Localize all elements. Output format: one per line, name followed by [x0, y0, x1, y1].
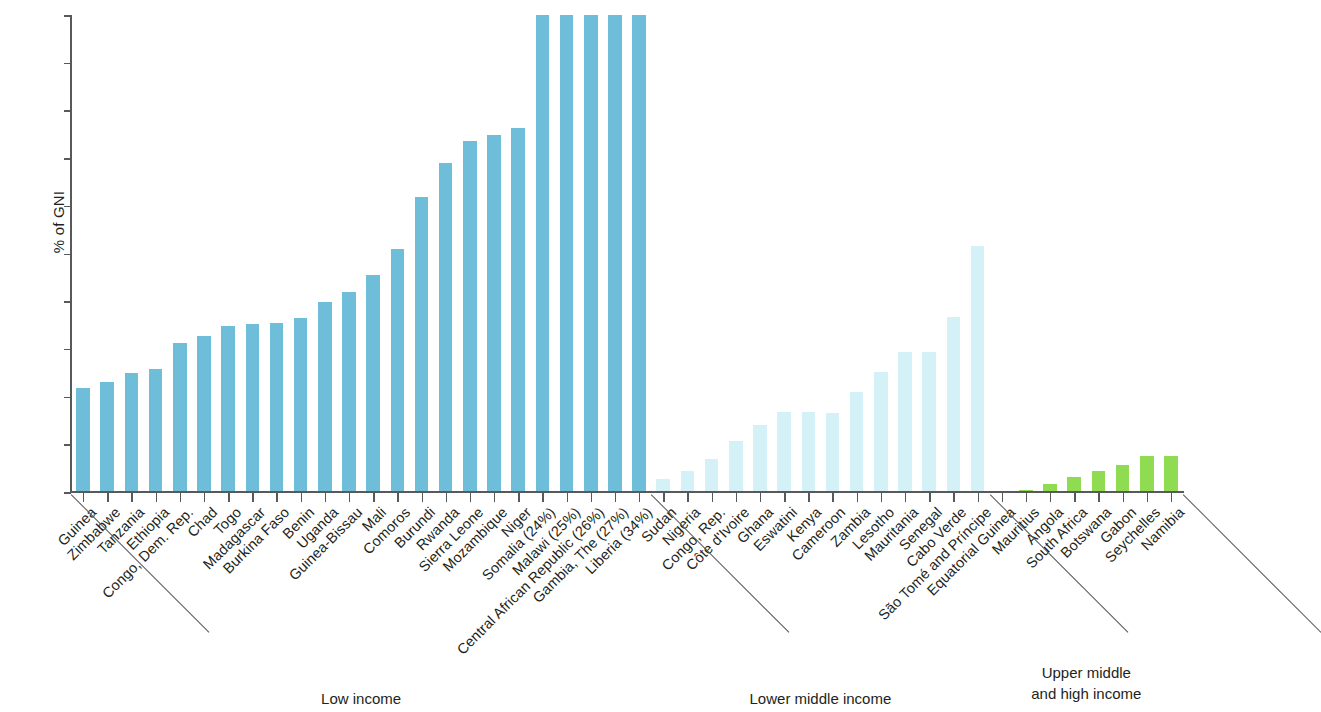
- x-axis-tick-mark: [518, 493, 519, 502]
- bar: [560, 15, 574, 492]
- x-axis-tick-mark: [784, 493, 785, 502]
- x-axis-tick-mark: [905, 493, 906, 502]
- x-axis-tick-mark: [156, 493, 157, 502]
- x-axis-tick-mark: [1123, 493, 1124, 502]
- x-axis-tick-mark: [542, 493, 543, 502]
- bar: [439, 163, 453, 492]
- bar: [608, 15, 622, 492]
- x-axis-tick-mark: [397, 493, 398, 502]
- x-axis-tick-mark: [349, 493, 350, 502]
- y-axis-tick-mark: [64, 158, 71, 160]
- x-axis-tick-mark: [228, 493, 229, 502]
- x-axis-tick-mark: [301, 493, 302, 502]
- y-axis-tick-mark: [64, 206, 71, 208]
- y-axis-title: % of GNI: [50, 162, 67, 282]
- bar: [173, 343, 187, 492]
- bar: [971, 246, 985, 492]
- x-axis-tick-mark: [325, 493, 326, 502]
- x-axis-tick-mark: [881, 493, 882, 502]
- x-axis-tick-mark: [639, 493, 640, 502]
- y-axis-tick-mark: [64, 254, 71, 256]
- y-axis-tick-mark: [64, 349, 71, 351]
- bar: [632, 15, 646, 492]
- x-axis-tick-mark: [1002, 493, 1003, 502]
- x-axis-line: [70, 491, 1184, 493]
- x-axis-tick-mark: [252, 493, 253, 502]
- x-axis-tick-mark: [276, 493, 277, 502]
- bar: [729, 441, 743, 492]
- group-separator-rule: [1183, 494, 1321, 633]
- y-axis-tick-mark: [64, 444, 71, 446]
- bar: [366, 275, 380, 492]
- bar: [391, 249, 405, 492]
- x-axis-tick-mark: [1098, 493, 1099, 502]
- bar: [1092, 471, 1106, 492]
- y-axis-tick-mark: [64, 397, 71, 399]
- bar: [777, 412, 791, 492]
- x-axis-tick-mark: [131, 493, 132, 502]
- bar: [536, 15, 550, 492]
- x-axis-tick-mark: [978, 493, 979, 502]
- y-axis-tick-mark: [64, 110, 71, 112]
- bar: [802, 412, 816, 492]
- bar: [125, 373, 139, 492]
- bar: [487, 135, 501, 492]
- x-axis-tick-mark: [204, 493, 205, 502]
- x-axis-tick-mark: [857, 493, 858, 502]
- x-axis-tick-mark: [107, 493, 108, 502]
- x-axis-tick-mark: [470, 493, 471, 502]
- x-axis-tick-mark: [615, 493, 616, 502]
- x-axis-tick-mark: [1050, 493, 1051, 502]
- bar: [221, 326, 235, 492]
- x-axis-tick-mark: [687, 493, 688, 502]
- bar: [584, 15, 598, 492]
- bar: [826, 413, 840, 492]
- x-axis-tick-mark: [567, 493, 568, 502]
- bar: [850, 392, 864, 492]
- bar: [415, 197, 429, 492]
- plot-area: [71, 15, 1183, 492]
- bar: [511, 128, 525, 492]
- x-axis-tick-mark: [373, 493, 374, 502]
- group-label: Upper middle and high income: [976, 662, 1196, 704]
- group-label: Lower middle income: [710, 688, 930, 709]
- x-axis-tick-mark: [422, 493, 423, 502]
- x-axis-tick-mark: [808, 493, 809, 502]
- x-axis-tick-mark: [929, 493, 930, 502]
- x-axis-tick-mark: [446, 493, 447, 502]
- x-axis-tick-mark: [760, 493, 761, 502]
- bar: [705, 459, 719, 492]
- x-axis-tick-mark: [83, 493, 84, 502]
- x-axis-tick-mark: [953, 493, 954, 502]
- x-axis-tick-mark: [180, 493, 181, 502]
- bar: [342, 292, 356, 492]
- x-axis-tick-mark: [1026, 493, 1027, 502]
- x-axis-tick-mark: [1147, 493, 1148, 502]
- x-axis-tick-mark: [1074, 493, 1075, 502]
- bar: [270, 323, 284, 492]
- bar: [246, 324, 260, 492]
- bar: [76, 388, 90, 492]
- bar: [463, 141, 477, 492]
- bar: [1164, 456, 1178, 492]
- x-axis-tick-mark: [712, 493, 713, 502]
- bar: [947, 317, 961, 492]
- bar: [1140, 456, 1154, 492]
- bar: [898, 352, 912, 492]
- x-axis-tick-mark: [1171, 493, 1172, 502]
- bar: [874, 372, 888, 492]
- x-axis-tick-mark: [494, 493, 495, 502]
- bar: [753, 425, 767, 492]
- bar: [681, 471, 695, 492]
- x-axis-tick-mark: [663, 493, 664, 502]
- bar: [318, 302, 332, 492]
- x-axis-tick-mark: [591, 493, 592, 502]
- bar: [1067, 477, 1081, 493]
- bar: [922, 352, 936, 492]
- bar: [197, 336, 211, 492]
- y-axis-tick-mark: [64, 301, 71, 303]
- x-axis-tick-mark: [832, 493, 833, 502]
- y-axis-tick-mark: [64, 63, 71, 65]
- bar: [1116, 465, 1130, 492]
